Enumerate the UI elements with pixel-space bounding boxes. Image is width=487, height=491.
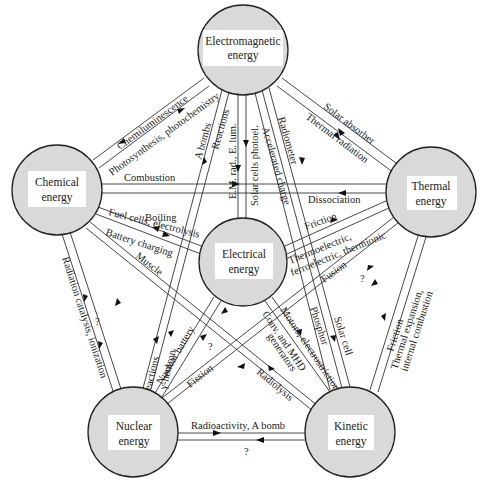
node-electrical-label-1: Electrical xyxy=(222,248,266,260)
node-electrical-label-2: energy xyxy=(228,263,259,276)
label-radioactivity: Radioactivity, A bomb xyxy=(191,420,285,431)
label-em-rad: E.M. rad., E. lum. xyxy=(227,123,238,199)
label-a-bombs: A bombs xyxy=(192,121,213,160)
node-kinetic-label-1: Kinetic xyxy=(334,420,368,432)
node-nuclear: Nuclear energy xyxy=(88,387,178,477)
node-chemical-label-1: Chemical xyxy=(35,176,79,188)
node-thermal-label-2: energy xyxy=(415,195,446,208)
node-thermal: Thermal energy xyxy=(386,147,476,237)
label-nuc-elec-question: ? xyxy=(208,341,213,352)
label-radiation-catalysis: Radiation catalysis, ionization xyxy=(60,255,110,380)
label-fission: Fission xyxy=(184,362,215,390)
label-nuc-kin-question: ? xyxy=(244,446,249,457)
node-electromagnetic: Electromagnetic energy xyxy=(198,5,288,95)
node-thermal-label-1: Thermal xyxy=(412,180,451,192)
label-chem-nuc-question: ? xyxy=(95,316,100,327)
node-electromagnetic-label-1: Electromagnetic xyxy=(205,35,280,48)
label-solar-cells-photoel: Solar cells photoel. xyxy=(249,125,260,206)
label-combustion: Combustion xyxy=(124,172,176,183)
node-nuclear-label-1: Nuclear xyxy=(116,420,153,432)
label-friction-thermal-elec: Friction xyxy=(303,210,339,232)
node-nuclear-label-2: energy xyxy=(118,435,149,448)
node-chemical-label-2: energy xyxy=(41,191,72,204)
energy-conversion-diagram: Chemiluminescence Photosynthesis, photoc… xyxy=(0,0,487,491)
node-kinetic-label-2: energy xyxy=(335,435,366,448)
label-dissociation: Dissociation xyxy=(308,194,361,205)
node-electromagnetic-label-2: energy xyxy=(227,49,258,62)
node-electrical: Electrical energy xyxy=(199,218,287,306)
label-fusion-question: ? xyxy=(360,273,365,284)
node-kinetic: Kinetic energy xyxy=(305,387,395,477)
node-chemical: Chemical energy xyxy=(12,145,102,235)
